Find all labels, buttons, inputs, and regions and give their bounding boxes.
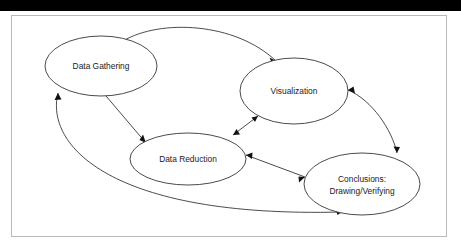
arrow-head-conclusions (394, 147, 401, 154)
edge-gathering-to-reduction (106, 96, 146, 143)
edge-path (348, 90, 397, 153)
node-data-gathering[interactable]: Data Gathering (45, 36, 157, 96)
node-data-reduction[interactable]: Data Reduction (130, 133, 246, 185)
edge-path (106, 96, 146, 143)
edge-reduction-to-conclusions (246, 153, 305, 183)
page-root: Data Gathering Visualization Data Reduct… (0, 0, 461, 249)
node-label-conclusions-line1: Conclusions: (338, 174, 386, 184)
arrow-head-reduction (233, 129, 240, 135)
node-visualization[interactable]: Visualization (240, 58, 348, 124)
edge-visualization-to-conclusions (348, 87, 400, 154)
arrow-head-visualization (348, 87, 355, 94)
node-conclusions[interactable]: Conclusions: Drawing/Verifying (304, 153, 420, 215)
process-diagram: Data Gathering Visualization Data Reduct… (0, 0, 461, 249)
node-label-visualization: Visualization (271, 86, 318, 96)
node-label-conclusions-line2: Drawing/Verifying (329, 186, 395, 196)
node-label-data-reduction: Data Reduction (159, 154, 217, 164)
node-label-data-gathering: Data Gathering (73, 61, 130, 71)
arrow-head-visualization (252, 116, 259, 122)
arrow-head-gathering (55, 93, 62, 100)
edge-path (246, 155, 305, 177)
edge-reduction-to-visualization (233, 116, 258, 135)
